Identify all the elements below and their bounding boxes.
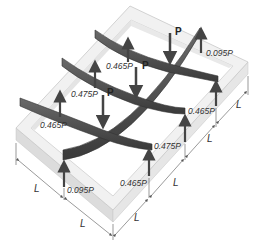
reaction-right-back-label: 0.465P: [188, 106, 215, 116]
reaction-right-mid-label: 0.475P: [154, 141, 181, 151]
dim-right-1: L: [134, 212, 140, 223]
dim-left-2: L: [80, 218, 86, 229]
reaction-back-top-label: 0.095P: [206, 48, 233, 58]
dim-right-3: L: [207, 133, 213, 144]
reaction-back-mid-label: 0.465P: [106, 61, 133, 71]
reaction-left-front-label: 0.465P: [40, 120, 67, 130]
dim-right-2: L: [173, 177, 179, 188]
load-2-label: P: [142, 60, 149, 71]
load-1-label: P: [107, 87, 114, 98]
dim-left-1: L: [34, 183, 40, 194]
dim-right-4: L: [236, 99, 242, 110]
reaction-front-right-label: 0.465P: [120, 178, 147, 188]
load-3-label: P: [175, 26, 182, 37]
grillage-diagram: P P P 0.095P 0.465P 0.475P 0.465: [0, 0, 262, 251]
reaction-left-mid-label: 0.475P: [71, 89, 98, 99]
reaction-front-left-label: 0.095P: [67, 185, 94, 195]
